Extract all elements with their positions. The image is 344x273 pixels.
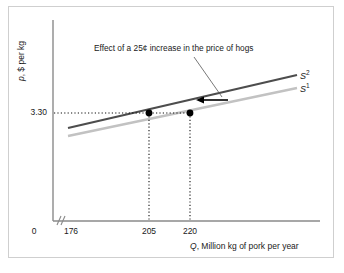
y-axis-title: p, $ per kg: [16, 26, 26, 96]
curve-label-s1-superscript: 1: [306, 82, 310, 89]
y-tick-label-330: 3.30: [13, 107, 47, 117]
annotation-leader-line: [194, 57, 222, 97]
x-axis-title-units: , Million kg of pork per year: [197, 241, 299, 251]
data-point-s1-220: [187, 110, 194, 117]
x-tick-label-176: 176: [58, 226, 84, 236]
curve-label-s1: S1: [300, 82, 310, 94]
x-tick-label-205: 205: [136, 226, 162, 236]
data-point-s2-205: [146, 110, 153, 117]
curve-label-s2: S2: [300, 69, 310, 81]
x-axis-title-variable: Q: [190, 241, 197, 251]
x-tick-label-0: 0: [27, 226, 41, 236]
y-axis-title-variable: p: [16, 76, 26, 81]
curve-label-s2-superscript: 2: [306, 69, 310, 76]
supply-curve-s1: [68, 88, 297, 136]
annotation-text: Effect of a 25¢ increase in the price of…: [94, 43, 253, 53]
figure-container: p, $ per kg Q, Million kg of pork per ye…: [0, 0, 344, 273]
chart-plot-area: [0, 0, 344, 273]
supply-curve-s2: [68, 75, 297, 128]
x-tick-label-220: 220: [177, 226, 203, 236]
x-axis-title: Q, Million kg of pork per year: [190, 241, 299, 251]
y-axis-title-units: , $ per kg: [16, 41, 26, 76]
